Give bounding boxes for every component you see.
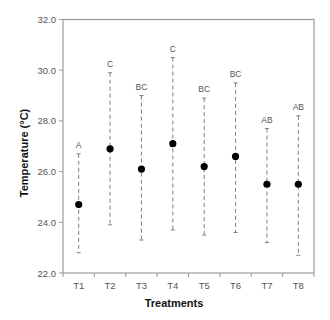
data-point-group: A	[75, 140, 82, 253]
data-point-group: C	[169, 44, 176, 230]
data-series: ACBCCBCBCABAB	[75, 44, 304, 256]
data-point-group: C	[106, 59, 113, 225]
significance-letter: AB	[293, 102, 305, 112]
y-tick-label: 26.0	[38, 166, 57, 177]
data-point-group: AB	[293, 102, 305, 255]
mean-marker	[232, 153, 239, 160]
x-tick-label: T8	[293, 280, 304, 291]
mean-marker	[295, 181, 302, 188]
y-axis-title: Temperature (°C)	[18, 108, 30, 197]
y-tick-label: 30.0	[38, 65, 57, 76]
y-tick-label: 28.0	[38, 115, 57, 126]
data-point-group: BC	[230, 69, 242, 233]
mean-marker	[263, 181, 270, 188]
data-point-group: AB	[261, 115, 273, 243]
x-axis-title: Treatments	[145, 297, 204, 309]
y-tick-label: 32.0	[38, 14, 57, 25]
x-tick-label: T2	[105, 280, 116, 291]
data-point-group: BC	[198, 84, 210, 235]
significance-letter: AB	[261, 115, 273, 125]
x-tick-label: T1	[73, 280, 84, 291]
significance-letter: BC	[230, 69, 242, 79]
chart: 22.024.026.028.030.032.0 T1T2T3T4T5T6T7T…	[0, 0, 330, 320]
significance-letter: C	[107, 59, 113, 69]
x-tick-label: T4	[167, 280, 178, 291]
plot-frame	[63, 20, 314, 274]
plot-border	[63, 20, 314, 274]
y-tick-label: 24.0	[38, 217, 57, 228]
significance-letter: A	[76, 140, 82, 150]
mean-marker	[106, 145, 113, 152]
x-tick-label: T7	[261, 280, 272, 291]
significance-letter: BC	[136, 82, 148, 92]
y-tick-label: 22.0	[38, 268, 57, 279]
y-axis: 22.024.026.028.030.032.0	[38, 14, 64, 279]
data-point-group: BC	[136, 82, 148, 240]
x-tick-label: T3	[136, 280, 147, 291]
significance-letter: BC	[198, 84, 210, 94]
mean-marker	[169, 140, 176, 147]
significance-letter: C	[170, 44, 176, 54]
mean-marker	[75, 201, 82, 208]
mean-marker	[138, 165, 145, 172]
x-tick-label: T6	[230, 280, 241, 291]
x-axis: T1T2T3T4T5T6T7T8	[63, 273, 314, 291]
x-tick-label: T5	[199, 280, 210, 291]
mean-marker	[201, 163, 208, 170]
